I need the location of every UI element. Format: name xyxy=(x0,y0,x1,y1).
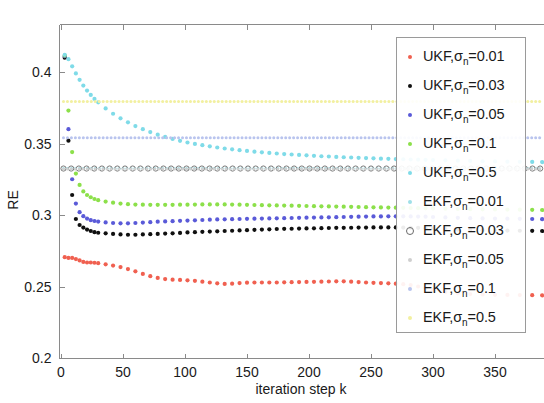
data-point xyxy=(540,208,544,212)
data-point xyxy=(332,136,335,139)
data-point xyxy=(213,136,216,139)
data-point xyxy=(173,167,176,170)
data-point xyxy=(233,167,236,170)
data-point xyxy=(245,217,249,221)
data-point xyxy=(137,136,140,139)
data-point xyxy=(368,167,371,170)
data-point xyxy=(297,216,301,220)
data-point xyxy=(221,100,224,103)
data-point xyxy=(163,203,167,207)
data-point xyxy=(349,280,353,284)
data-point xyxy=(364,225,368,229)
data-point xyxy=(201,167,204,170)
data-point xyxy=(185,203,189,207)
data-point xyxy=(290,152,294,156)
data-point xyxy=(357,225,361,229)
data-point xyxy=(540,293,544,297)
legend-item[interactable]: EKF,σn=0.05 xyxy=(397,245,527,274)
data-point xyxy=(110,100,113,103)
data-point xyxy=(327,226,331,230)
data-point xyxy=(296,136,299,139)
data-point xyxy=(327,279,331,283)
data-point xyxy=(197,136,200,139)
data-point xyxy=(241,100,244,103)
data-point xyxy=(371,100,374,103)
data-point xyxy=(386,281,390,285)
legend-item[interactable]: EKF,σn=0.01 xyxy=(397,187,527,216)
data-point xyxy=(173,136,176,139)
data-point xyxy=(312,100,315,103)
data-point xyxy=(324,167,327,170)
data-point xyxy=(391,136,394,139)
data-point xyxy=(133,136,136,139)
data-point xyxy=(66,256,70,260)
data-point xyxy=(260,216,264,220)
data-point xyxy=(74,201,78,205)
legend-item[interactable]: UKF,σn=0.05 xyxy=(397,100,527,129)
data-point xyxy=(230,217,234,221)
data-point xyxy=(348,100,351,103)
x-tick-label: 250 xyxy=(359,364,383,380)
data-point xyxy=(153,136,156,139)
data-point xyxy=(205,136,208,139)
legend-item[interactable]: EKF,σn=0.5 xyxy=(397,303,527,332)
legend-label: UKF,σn=0.03 xyxy=(423,78,505,93)
data-point xyxy=(534,167,537,170)
data-point xyxy=(141,220,145,224)
data-point xyxy=(98,100,101,103)
data-point xyxy=(327,215,331,219)
data-point xyxy=(364,280,368,284)
data-point xyxy=(102,136,105,139)
data-point xyxy=(178,219,182,223)
legend-item[interactable]: UKF,σn=0.03 xyxy=(397,71,527,100)
data-point xyxy=(368,100,371,103)
data-point xyxy=(118,100,121,103)
data-point xyxy=(126,267,130,271)
data-point xyxy=(221,136,224,139)
legend-item[interactable]: UKF,σn=0.01 xyxy=(397,42,527,71)
data-point xyxy=(169,136,172,139)
data-point xyxy=(104,231,108,235)
data-point xyxy=(290,227,294,231)
data-point xyxy=(357,205,361,209)
data-point xyxy=(260,167,263,170)
data-point xyxy=(185,230,189,234)
data-point xyxy=(371,156,375,160)
data-point xyxy=(230,229,234,233)
data-point xyxy=(102,167,105,170)
legend-item[interactable]: UKF,σn=0.5 xyxy=(397,158,527,187)
data-point xyxy=(125,167,128,170)
data-point xyxy=(297,280,301,284)
legend-item[interactable]: EKF,σn=0.1 xyxy=(397,274,527,303)
data-point xyxy=(312,154,316,158)
data-point xyxy=(66,100,69,103)
data-point xyxy=(312,226,316,230)
data-point xyxy=(319,280,323,284)
data-point xyxy=(111,112,115,116)
data-point xyxy=(92,261,96,265)
data-point xyxy=(252,217,256,221)
data-point xyxy=(386,214,390,218)
data-point xyxy=(185,140,189,144)
data-point xyxy=(200,230,204,234)
data-point xyxy=(348,167,351,170)
legend-item[interactable]: UKF,σn=0.1 xyxy=(397,129,527,158)
data-point xyxy=(96,219,100,223)
data-point xyxy=(85,193,89,197)
legend-marker-icon xyxy=(397,171,423,175)
data-point xyxy=(122,136,125,139)
legend-item[interactable]: EKF,σn=0.03 xyxy=(397,216,527,245)
data-point xyxy=(233,100,236,103)
data-point xyxy=(156,276,160,280)
data-point xyxy=(275,151,279,155)
data-point xyxy=(364,100,367,103)
data-point xyxy=(122,100,125,103)
data-point xyxy=(316,100,319,103)
data-point xyxy=(319,204,323,208)
data-point xyxy=(296,100,299,103)
data-point xyxy=(364,214,368,218)
data-point xyxy=(110,136,113,139)
data-point xyxy=(89,260,93,264)
data-point xyxy=(538,167,541,170)
data-point xyxy=(98,136,101,139)
